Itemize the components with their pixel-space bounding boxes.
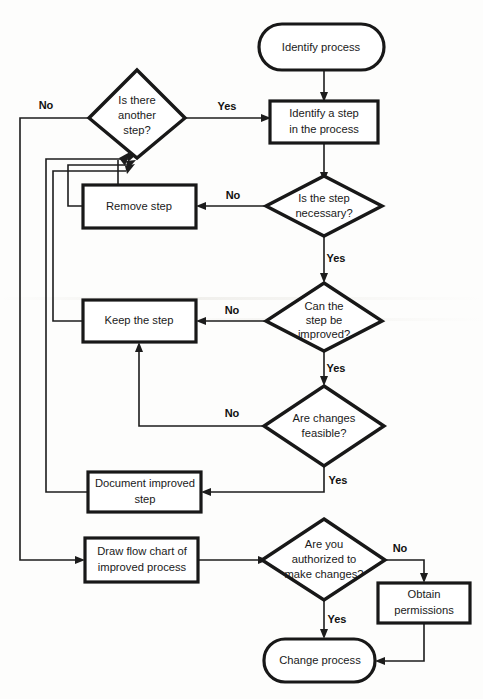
node-label-necessary-line2: necessary? [295,207,352,219]
node-are-you-authorized[interactable]: Are you authorized to make changes? [262,519,385,600]
node-is-another-step[interactable]: Is there another step? [89,70,185,158]
edge-label-feasible-no: No [225,407,240,419]
node-label-improved-line2: step be [306,314,343,326]
connector-necessary-no [196,202,266,210]
node-label-identify-step-line2: in the process [289,123,359,135]
node-label-keep-the-step: Keep the step [104,314,173,326]
connector-drawchart-to-authorized [198,556,268,564]
node-label-improved-line3: improved? [298,328,350,340]
connector-improved-no [196,317,266,325]
node-label-obtain-line2: permissions [394,604,454,616]
edge-label-authorized-yes: Yes [328,613,347,625]
node-label-obtain-line1: Obtain [408,588,441,600]
node-can-step-be-improved[interactable]: Can the step be improved? [266,283,382,351]
node-label-drawchart-line2: improved process [98,561,187,573]
node-label-authorized-line2: authorized to [292,553,357,565]
node-label-identify-process: Identify process [282,41,361,53]
node-label-another-step-line3: step? [123,124,150,136]
node-label-document-step-line2: step [134,493,155,505]
connector-obtain-permissions-to-change-process [375,623,424,665]
connector-feasible-yes [201,466,324,496]
node-draw-flow-chart[interactable]: Draw flow chart of improved process [85,538,198,582]
node-label-necessary-line1: Is the step [298,192,350,204]
node-label-another-step-line1: Is there [118,94,155,106]
edge-label-another-step-no: No [39,99,54,111]
edge-label-improved-yes: Yes [327,362,346,374]
node-are-changes-feasible[interactable]: Are changes feasible? [264,386,384,466]
node-label-authorized-line1: Are you [305,538,344,550]
node-identify-step[interactable]: Identify a step in the process [270,101,378,143]
edge-label-necessary-no: No [226,189,241,201]
node-label-remove-step: Remove step [106,200,172,212]
node-is-step-necessary[interactable]: Is the step necessary? [266,176,382,236]
connector-identify-process-to-identify-step [320,70,328,102]
node-label-identify-step-line1: Identify a step [289,107,359,119]
edge-label-another-step-yes: Yes [218,100,237,112]
edge-label-improved-no: No [225,304,240,316]
node-label-feasible-line2: feasible? [302,427,347,439]
flowchart-canvas: Identify process Identify a step in the … [0,0,483,699]
node-label-drawchart-line1: Draw flow chart of [97,545,187,557]
node-label-feasible-line1: Are changes [293,412,356,424]
connector-authorized-no [385,560,428,583]
node-label-document-step-line1: Document improved [95,477,195,489]
node-document-improved-step[interactable]: Document improved step [88,472,201,512]
node-change-process[interactable]: Change process [264,639,375,682]
node-label-authorized-line3: make changes? [285,568,364,580]
edge-label-necessary-yes: Yes [327,252,346,264]
connector-feasible-no [135,342,264,426]
connector-another-step-no [20,118,89,564]
node-identify-process[interactable]: Identify process [259,24,384,70]
connector-another-step-yes [185,114,271,122]
node-obtain-permissions[interactable]: Obtain permissions [378,583,470,623]
flowchart-page: Identify process Identify a step in the … [0,0,483,699]
node-label-another-step-line2: another [118,109,156,121]
node-label-improved-line1: Can the [304,300,343,312]
node-keep-the-step[interactable]: Keep the step [83,300,196,342]
edge-label-authorized-no: No [393,542,408,554]
edge-label-feasible-yes: Yes [329,474,348,486]
node-label-change-process: Change process [279,654,361,666]
node-remove-step[interactable]: Remove step [83,185,196,228]
